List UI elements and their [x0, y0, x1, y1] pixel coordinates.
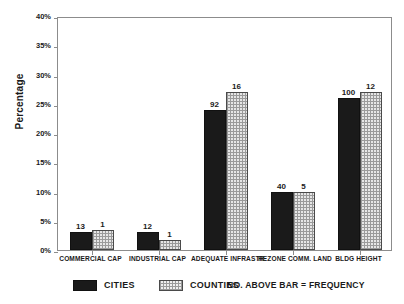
x-axis-label: REZONE COMM. LAND	[258, 255, 325, 262]
bar-value-label: 1	[100, 221, 104, 229]
bar-value-label: 16	[232, 83, 241, 91]
legend-note: NO. ABOVE BAR = FREQUENCY	[227, 278, 365, 292]
plot-area: 0%5%10%15%20%25%30%35%40% 13112192164051…	[57, 17, 392, 251]
bar-value-label: 5	[301, 183, 305, 191]
y-tick-line	[54, 252, 58, 253]
bar-cities: 13	[70, 232, 92, 250]
bar-chart: Percentage 0%5%10%15%20%25%30%35%40% 131…	[0, 0, 404, 304]
bar-cities: 40	[271, 192, 293, 251]
x-axis-label: BLDG HEIGHT	[325, 255, 392, 262]
bar-value-label: 92	[210, 101, 219, 109]
bar-value-label: 40	[277, 183, 286, 191]
legend-label-cities: CITIES	[104, 280, 135, 290]
legend-item-cities: CITIES	[73, 278, 135, 292]
y-tick-line	[54, 135, 58, 136]
y-tick-label: 30%	[36, 71, 51, 80]
y-axis-title: Percentage	[14, 47, 25, 157]
y-tick-line	[54, 18, 58, 19]
y-tick-label: 40%	[36, 12, 51, 21]
bar-counties: 16	[226, 92, 248, 250]
y-tick-label: 5%	[40, 217, 51, 226]
bar-cities: 12	[137, 232, 159, 250]
x-axis-label: COMMERCIAL CAP	[57, 255, 124, 262]
y-tick-label: 0%	[40, 246, 51, 255]
y-tick-line	[54, 164, 58, 165]
y-tick-label: 20%	[36, 129, 51, 138]
bar-value-label: 1	[167, 231, 171, 239]
bar-counties: 1	[92, 230, 114, 250]
bar-value-label: 13	[76, 223, 85, 231]
y-tick-line	[54, 194, 58, 195]
bar-value-label: 12	[143, 223, 152, 231]
y-tick-label: 15%	[36, 158, 51, 167]
y-tick-label: 35%	[36, 41, 51, 50]
bar-value-label: 100	[342, 89, 355, 97]
bar-counties: 5	[293, 192, 315, 251]
y-tick-line	[54, 106, 58, 107]
y-tick-label: 25%	[36, 100, 51, 109]
bar-counties: 1	[159, 240, 181, 250]
legend-swatch-cities-icon	[73, 280, 97, 291]
legend-swatch-counties-icon	[159, 280, 183, 291]
y-tick-line	[54, 77, 58, 78]
bar-cities: 100	[338, 98, 360, 250]
bar-counties: 12	[360, 92, 382, 250]
bar-value-label: 12	[366, 83, 375, 91]
bar-cities: 92	[204, 110, 226, 250]
chart-legend: CITIES COUNTIES NO. ABOVE BAR = FREQUENC…	[0, 278, 404, 298]
x-axis-label: INDUSTRIAL CAP	[124, 255, 191, 262]
y-tick-line	[54, 223, 58, 224]
x-axis-label: ADEQUATE INFRASTR.	[191, 255, 258, 262]
y-tick-line	[54, 47, 58, 48]
y-tick-label: 10%	[36, 188, 51, 197]
